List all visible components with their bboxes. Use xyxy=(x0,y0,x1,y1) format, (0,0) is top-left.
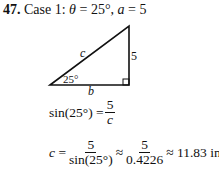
base-label: b xyxy=(88,84,94,99)
eq2-approx-1: ≈ xyxy=(116,145,123,161)
angle-label: 25° xyxy=(63,73,78,85)
eq2-fraction-1: 5 sin(25°) xyxy=(67,138,115,167)
eq2-frac1-numerator: 5 xyxy=(85,138,96,153)
vertical-side-label: 5 xyxy=(131,49,137,64)
eq2-frac2-numerator: 5 xyxy=(139,138,150,153)
equation-sine: sin(25°) = 5 c xyxy=(49,98,116,127)
eq1-numerator: 5 xyxy=(105,98,116,113)
eq1-denominator: c xyxy=(105,113,115,127)
eq2-fraction-2: 5 0.4226 xyxy=(124,138,165,167)
eq2-lhs-var: c xyxy=(49,145,55,161)
eq2-frac2-denominator: 0.4226 xyxy=(124,153,165,167)
eq2-result: ≈ 11.83 in. xyxy=(166,145,219,161)
hypotenuse-label: c xyxy=(80,46,85,61)
eq2-frac1-denominator: sin(25°) xyxy=(67,153,115,167)
equation-solve-c: c = 5 sin(25°) ≈ 5 0.4226 ≈ 11.83 in. xyxy=(49,138,219,167)
eq1-fraction: 5 c xyxy=(105,98,116,127)
eq1-lhs: sin(25°) = xyxy=(49,105,104,121)
eq2-equals: = xyxy=(58,145,66,161)
